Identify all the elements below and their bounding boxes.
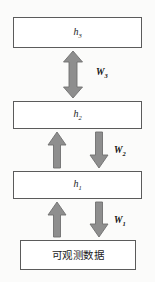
layer-box-h2: h2 bbox=[13, 101, 142, 129]
bidirectional-arrow-icon bbox=[62, 50, 84, 99]
layer-label-observable-data: 可观测数据 bbox=[21, 250, 135, 261]
layer-label-h2: h2 bbox=[14, 109, 141, 122]
hierarchical-layer-diagram: h3 W3 h2 W2 h1 W1 可观测数据 bbox=[0, 0, 155, 282]
layer-label-h1: h1 bbox=[14, 179, 141, 192]
layer-label-h3: h3 bbox=[14, 26, 141, 39]
layer-box-h3: h3 bbox=[13, 17, 142, 48]
down-arrow-icon bbox=[89, 131, 109, 169]
up-arrow-icon bbox=[47, 201, 67, 238]
down-arrow-icon bbox=[89, 201, 109, 238]
weight-label-W1: W1 bbox=[114, 216, 126, 227]
weight-label-W2: W2 bbox=[114, 146, 126, 157]
up-arrow-icon bbox=[47, 131, 67, 169]
weight-label-W3: W3 bbox=[96, 68, 108, 79]
layer-box-observable-data: 可观测数据 bbox=[20, 240, 136, 270]
layer-box-h1: h1 bbox=[13, 171, 142, 199]
